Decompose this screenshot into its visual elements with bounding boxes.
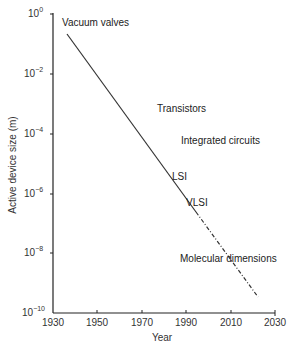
y-axis-title: Active device size (m) [7, 116, 18, 213]
annotation-integrated-circuits: Integrated circuits [181, 135, 260, 146]
svg-text:10−4: 10−4 [24, 126, 43, 139]
annotation-lsi: LSI [172, 171, 187, 182]
svg-text:2030: 2030 [264, 317, 287, 328]
x-tick-labels: 1930 1950 1970 1990 2010 2030 [42, 317, 287, 328]
svg-text:1970: 1970 [131, 317, 154, 328]
svg-text:1950: 1950 [86, 317, 109, 328]
trend-line-solid [67, 34, 196, 212]
svg-text:100: 100 [28, 6, 43, 19]
annotation-molecular-dimensions: Molecular dimensions [180, 253, 277, 264]
y-tick-labels: 100 10−2 10−4 10−6 10−8 10−10 [22, 6, 45, 318]
annotation-vacuum-valves: Vacuum valves [62, 17, 129, 28]
svg-text:1990: 1990 [175, 317, 198, 328]
svg-text:10−2: 10−2 [24, 66, 43, 79]
svg-text:10−6: 10−6 [24, 186, 43, 199]
svg-text:2010: 2010 [220, 317, 243, 328]
chart: 100 10−2 10−4 10−6 10−8 10−10 1930 1950 … [0, 0, 295, 352]
annotation-vlsi: VLSI [186, 197, 208, 208]
svg-text:1930: 1930 [42, 317, 65, 328]
annotation-transistors: Transistors [157, 103, 206, 114]
x-axis-title: Year [152, 332, 173, 343]
annotations: Vacuum valves Transistors Integrated cir… [62, 17, 277, 264]
svg-text:10−8: 10−8 [24, 245, 43, 258]
